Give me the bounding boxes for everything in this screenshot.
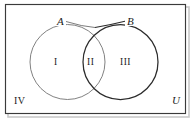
region-label-ii: II (87, 58, 94, 68)
set-a-label: A (57, 16, 64, 27)
set-b-label: B (127, 16, 134, 27)
venn-diagram-figure: A B I II III IV U (0, 0, 194, 121)
region-label-iv: IV (14, 96, 26, 106)
region-label-iii: III (120, 58, 131, 68)
venn-diagram-canvas (0, 0, 194, 121)
universal-set-label: U (172, 95, 180, 106)
region-label-i: I (54, 58, 58, 68)
